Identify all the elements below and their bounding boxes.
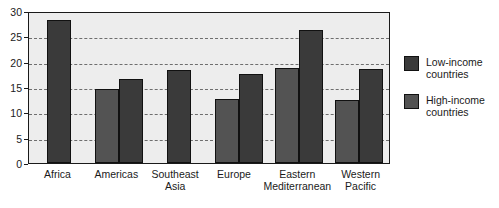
x-axis-label: Western Pacific	[331, 168, 390, 192]
bar	[95, 89, 119, 163]
bar	[299, 30, 323, 163]
x-axis-label: Americas	[87, 168, 146, 192]
x-axis-label: Eastern Mediterranean	[263, 168, 331, 192]
y-tick-label: 0	[16, 159, 22, 170]
bar	[359, 69, 383, 163]
legend-item: Low-income countries	[404, 56, 499, 80]
bar	[215, 99, 239, 163]
bar-group	[149, 13, 209, 163]
legend-label: High-income countries	[426, 95, 485, 118]
grouped-bar-chart: 051015202530 AfricaAmericasSoutheast Asi…	[0, 0, 499, 208]
bar-group	[89, 13, 149, 163]
y-tick-mark	[24, 164, 28, 165]
bar-group	[329, 13, 389, 163]
legend-swatch-icon	[404, 94, 419, 109]
x-axis-label: Europe	[205, 168, 264, 192]
bar-group	[29, 13, 89, 163]
y-axis: 051015202530	[0, 12, 28, 164]
bar	[275, 68, 299, 163]
legend-item: High-income countries	[404, 94, 499, 118]
chart-legend: Low-income countriesHigh-income countrie…	[404, 56, 499, 132]
bar	[47, 20, 71, 163]
bar	[167, 70, 191, 163]
plot-area	[28, 12, 390, 164]
bar-group	[269, 13, 329, 163]
legend-swatch-icon	[404, 56, 419, 71]
bar-group	[209, 13, 269, 163]
bars-layer	[29, 13, 389, 163]
bar	[119, 79, 143, 163]
x-axis-labels: AfricaAmericasSoutheast AsiaEuropeEaster…	[28, 168, 390, 192]
y-tick-label: 5	[16, 133, 22, 144]
legend-label: Low-income countries	[426, 57, 483, 80]
bar	[239, 74, 263, 163]
y-tick-label: 10	[10, 108, 22, 119]
y-tick-label: 20	[10, 57, 22, 68]
y-tick-label: 15	[10, 83, 22, 94]
bar	[335, 100, 359, 163]
y-tick-label: 25	[10, 32, 22, 43]
x-axis-label: Africa	[28, 168, 87, 192]
x-axis-label: Southeast Asia	[146, 168, 205, 192]
y-tick-label: 30	[10, 7, 22, 18]
